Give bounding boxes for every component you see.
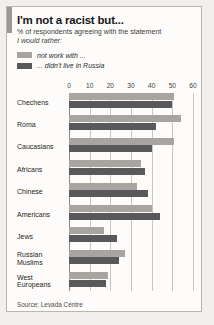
bar-row: Russian Muslims [17,250,195,269]
bar-row: Caucasians [17,138,195,157]
bar-not-work-with [69,183,137,190]
bar-didnt-live-in-russia [69,101,172,108]
category-label: Roma [17,121,69,129]
category-label: Africans [17,166,69,174]
plot-area: 0102030405060 ChechensRomaCaucasiansAfri… [17,82,195,291]
x-tick-label: 60 [189,82,196,89]
x-tick-label: 30 [127,82,134,89]
category-label: Russian Muslims [17,252,69,267]
bar-didnt-live-in-russia [69,145,152,152]
bar-not-work-with [69,160,141,167]
screenshot-root: I'm not a racist but... % of respondents… [0,0,214,325]
x-tick-label: 50 [169,82,176,89]
bar-didnt-live-in-russia [69,280,106,287]
bar-didnt-live-in-russia [69,213,160,220]
card-inner: I'm not a racist but... % of respondents… [17,14,195,309]
x-axis-tick-labels: 0102030405060 [17,82,195,92]
category-label: Chechens [17,99,69,107]
bar-row: Chechens [17,93,195,112]
bar-not-work-with [69,93,174,100]
x-tick-label: 40 [148,82,155,89]
bar-not-work-with [69,205,152,212]
legend-item: ... didn't live in Russia [17,62,195,70]
category-label: Chinese [17,188,69,196]
legend-item: not work with ... [17,51,195,59]
grid-and-bars: ChechensRomaCaucasiansAfricansChineseAme… [17,93,195,291]
chart-subtitle-italic: I would rather: [17,37,195,46]
bar-not-work-with [69,250,125,257]
bar-row: West Europeans [17,272,195,291]
legend-item-label: ... didn't live in Russia [37,62,104,69]
category-label: Americans [17,211,69,219]
chart-subtitle: % of respondents agreeing with the state… [17,28,195,37]
x-tick-label: 10 [86,82,93,89]
bar-rows: ChechensRomaCaucasiansAfricansChineseAme… [17,93,195,291]
x-tick-label: 0 [67,82,71,89]
category-label: Jews [17,233,69,241]
x-tick-label: 20 [107,82,114,89]
bar-not-work-with [69,272,108,279]
accent-bar [7,7,12,33]
chart-legend: not work with ...... didn't live in Russ… [17,51,195,70]
bar-not-work-with [69,115,181,122]
bar-didnt-live-in-russia [69,235,117,242]
page-title: I'm not a racist but... [17,14,195,27]
bar-didnt-live-in-russia [69,190,148,197]
legend-item-label: not work with ... [37,52,86,59]
bar-row: Americans [17,205,195,224]
bar-not-work-with [69,227,104,234]
bar-row: Africans [17,160,195,179]
source-note: Source: Levada Centre [17,301,83,308]
bar-row: Roma [17,115,195,134]
bar-not-work-with [69,138,174,145]
legend-swatch-didnt-live-in-russia [17,63,32,69]
bar-didnt-live-in-russia [69,257,119,264]
bar-didnt-live-in-russia [69,123,156,130]
category-label: West Europeans [17,274,69,289]
chart-card: I'm not a racist but... % of respondents… [6,6,202,312]
bar-didnt-live-in-russia [69,168,145,175]
category-label: Caucasians [17,144,69,152]
bar-row: Chinese [17,183,195,202]
legend-swatch-not-work-with [17,52,32,58]
bar-row: Jews [17,227,195,246]
